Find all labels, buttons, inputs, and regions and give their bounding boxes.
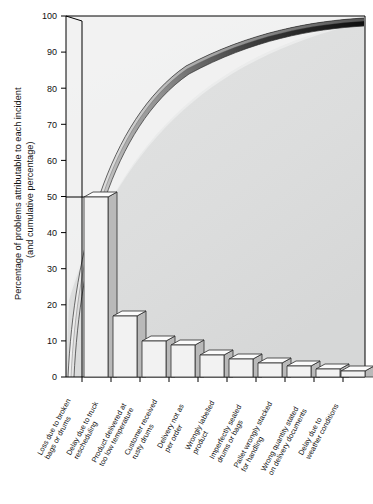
pareto-chart: 0 10 20 30 40 50 60 70 80 90 100 Percent…: [0, 0, 373, 504]
y-tick-label-20: 20: [47, 300, 57, 310]
y-tick-label-40: 40: [47, 228, 57, 238]
y-ticks: [61, 16, 66, 377]
y-tick-label-100: 100: [42, 11, 57, 21]
x-ticks: [82, 377, 343, 382]
x-axis: [66, 377, 365, 382]
cat-label-9: Delay due to weather conditions: [296, 398, 341, 462]
bar-3[interactable]: [171, 340, 204, 377]
y-tick-label-70: 70: [47, 120, 57, 130]
bar-1[interactable]: [113, 311, 146, 377]
y-axis-title: Percentage of problems attributable to e…: [13, 87, 35, 300]
cat-label-2: Product delivered at too low temperature: [89, 402, 135, 468]
y-axis-title-line1: Percentage of problems attributable to e…: [13, 87, 23, 300]
y-axis-title-line2: (and cumulative percentage): [25, 142, 35, 258]
chart-svg: 0 10 20 30 40 50 60 70 80 90 100 Percent…: [0, 0, 373, 504]
y-tick-label-90: 90: [47, 47, 57, 57]
bar-0[interactable]: [84, 192, 117, 377]
y-tick-label-10: 10: [47, 336, 57, 346]
bar-6[interactable]: [258, 358, 291, 377]
y-tick-labels: 0 10 20 30 40 50 60 70 80 90 100: [42, 11, 57, 382]
bar-5[interactable]: [229, 354, 262, 377]
y-tick-label-0: 0: [52, 372, 57, 382]
y-tick-label-30: 30: [47, 264, 57, 274]
bar-4[interactable]: [200, 350, 233, 377]
bar-2[interactable]: [142, 336, 175, 377]
x-category-labels: Loss due to broken bags or drums Delay d…: [35, 397, 340, 477]
y-axis: 0 10 20 30 40 50 60 70 80 90 100: [42, 11, 66, 382]
y-tick-label-80: 80: [47, 84, 57, 94]
bar-7[interactable]: [287, 361, 320, 377]
y-tick-label-60: 60: [47, 156, 57, 166]
y-tick-label-50: 50: [47, 192, 57, 202]
